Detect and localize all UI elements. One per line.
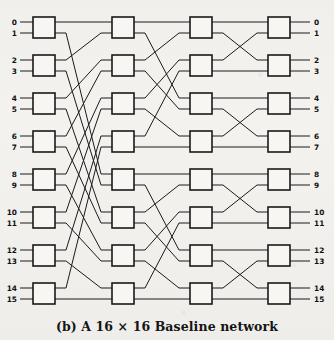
switch-box [33,283,55,304]
output-port-label: 8 [314,170,319,179]
network-link [134,71,190,136]
switch-box [112,93,134,114]
figure-caption-text: (b) A 16 × 16 Baseline network [56,319,278,334]
input-port-label: 14 [7,284,17,293]
network-link [55,33,112,60]
output-port-label: 5 [314,105,319,114]
switch-box [112,245,134,266]
switch-box [190,245,212,266]
input-port-label: 9 [12,181,17,190]
switch-box [268,17,290,38]
input-port-label: 2 [12,56,17,65]
switch-box [190,283,212,304]
baseline-network-diagram: 0123456789101112131415012345678910111213… [0,0,334,340]
switch-boxes-layer [33,17,290,304]
output-port-label: 15 [314,295,324,304]
switch-box [268,131,290,152]
network-link [134,109,190,136]
network-link [212,261,268,288]
input-port-label: 11 [7,219,17,228]
network-link [212,185,268,212]
switch-box [268,283,290,304]
network-link [55,261,112,288]
output-port-label: 9 [314,181,319,190]
links-layer [20,22,310,299]
input-port-label: 15 [7,295,17,304]
switch-box [33,55,55,76]
network-link [55,147,112,288]
network-link [212,33,268,60]
output-port-label: 12 [314,246,324,255]
output-port-label: 14 [314,284,324,293]
network-link [134,33,190,60]
network-link [134,185,190,250]
network-link [55,71,112,136]
network-link [55,136,112,250]
output-port-label: 7 [314,143,319,152]
switch-box [33,17,55,38]
switch-box [112,55,134,76]
network-link [134,33,190,98]
input-port-label: 5 [12,105,17,114]
output-port-label: 6 [314,132,319,141]
input-port-label: 7 [12,143,17,152]
input-port-label: 10 [7,208,17,217]
output-port-label: 2 [314,56,319,65]
switch-box [190,17,212,38]
output-port-label: 1 [314,29,319,38]
switch-box [268,245,290,266]
network-link [212,109,268,136]
network-link [134,185,190,212]
switch-box [33,245,55,266]
switch-box [190,169,212,190]
switch-box [190,131,212,152]
output-port-label: 0 [314,18,319,27]
switch-box [190,55,212,76]
input-port-label: 3 [12,67,17,76]
output-port-label: 11 [314,219,324,228]
figure-caption: (b) A 16 × 16 Baseline network [0,319,334,334]
output-port-label: 3 [314,67,319,76]
switch-box [33,131,55,152]
output-port-label: 4 [314,94,319,103]
network-link [134,261,190,288]
switch-box [33,93,55,114]
switch-box [112,17,134,38]
switch-box [268,207,290,228]
switch-box [268,169,290,190]
network-link [55,60,112,98]
network-link [55,223,112,261]
switch-box [190,93,212,114]
network-link [55,109,112,212]
network-link [134,223,190,288]
network-link [55,71,112,185]
output-port-label: 10 [314,208,324,217]
output-port-label: 13 [314,257,324,266]
input-port-label: 8 [12,170,17,179]
switch-box [190,207,212,228]
input-port-label: 4 [12,94,17,103]
switch-box [112,169,134,190]
switch-box [268,55,290,76]
switch-box [112,131,134,152]
input-port-label: 0 [12,18,17,27]
switch-box [33,207,55,228]
switch-box [112,283,134,304]
input-port-label: 1 [12,29,17,38]
switch-box [33,169,55,190]
input-port-label: 13 [7,257,17,266]
switch-box [268,93,290,114]
switch-box [112,207,134,228]
input-port-label: 12 [7,246,17,255]
input-port-label: 6 [12,132,17,141]
